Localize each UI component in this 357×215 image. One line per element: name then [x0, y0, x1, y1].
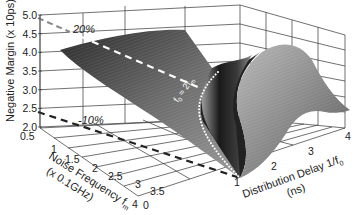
svg-text:4: 4	[345, 130, 351, 142]
svg-text:2.5: 2.5	[22, 102, 37, 114]
svg-text:1: 1	[234, 176, 240, 188]
svg-text:5.0: 5.0	[22, 9, 37, 21]
svg-text:3.5: 3.5	[150, 185, 165, 197]
svg-text:3.5: 3.5	[22, 65, 37, 77]
annotation-20-percent: 20%	[72, 23, 95, 35]
plus20-line-back	[38, 18, 70, 32]
svg-text:4.5: 4.5	[22, 28, 37, 40]
svg-text:3: 3	[135, 178, 141, 190]
svg-text:3: 3	[308, 145, 314, 157]
surface-chart: 20% -10% f0 ≈ 2fm 5.0 4.5 4.0 3.5 3.0 2.…	[0, 0, 357, 215]
surface	[60, 30, 350, 178]
z-tick-labels: 5.0 4.5 4.0 3.5 3.0 2.5 2.0	[22, 9, 37, 133]
svg-text:4.0: 4.0	[22, 46, 37, 58]
svg-text:0: 0	[143, 199, 149, 211]
annotation-minus10-percent: -10%	[78, 114, 104, 126]
svg-text:3.0: 3.0	[22, 84, 37, 96]
x-axis-label: Noise Frequency fm (x 0.1GHz)	[40, 150, 135, 215]
svg-text:2: 2	[271, 160, 277, 172]
svg-text:2.5: 2.5	[108, 170, 123, 182]
svg-text:0.5: 0.5	[20, 130, 35, 142]
svg-text:4: 4	[132, 198, 138, 210]
z-axis-label: Negative Margin (x 10ps)	[4, 0, 16, 122]
svg-text:2: 2	[92, 162, 98, 174]
